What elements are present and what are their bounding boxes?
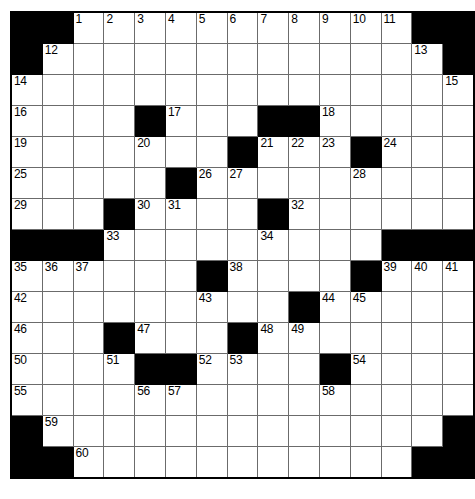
crossword-cell-numbered[interactable]: 24 (381, 137, 412, 168)
crossword-cell-numbered[interactable]: 12 (42, 44, 73, 75)
crossword-cell[interactable] (227, 44, 258, 75)
crossword-cell[interactable] (319, 44, 350, 75)
crossword-cell[interactable] (443, 137, 474, 168)
crossword-cell-numbered[interactable]: 40 (412, 261, 443, 292)
crossword-cell[interactable] (73, 137, 104, 168)
crossword-cell[interactable] (289, 416, 320, 447)
crossword-cell-numbered[interactable]: 46 (11, 323, 42, 354)
crossword-cell[interactable] (350, 385, 381, 416)
crossword-cell[interactable] (381, 168, 412, 199)
crossword-cell[interactable] (135, 292, 166, 323)
crossword-cell[interactable] (412, 75, 443, 106)
crossword-cell[interactable] (381, 44, 412, 75)
crossword-cell-numbered[interactable]: 28 (350, 168, 381, 199)
crossword-cell[interactable] (258, 385, 289, 416)
crossword-cell-numbered[interactable]: 23 (319, 137, 350, 168)
crossword-cell[interactable] (443, 323, 474, 354)
crossword-cell[interactable] (319, 199, 350, 230)
crossword-cell[interactable] (289, 354, 320, 385)
crossword-cell[interactable] (196, 199, 227, 230)
crossword-cell[interactable] (381, 416, 412, 447)
crossword-cell-numbered[interactable]: 4 (165, 12, 196, 44)
crossword-cell[interactable] (289, 261, 320, 292)
crossword-cell[interactable] (443, 199, 474, 230)
crossword-cell-numbered[interactable]: 35 (11, 261, 42, 292)
crossword-cell[interactable] (165, 416, 196, 447)
crossword-cell[interactable] (196, 44, 227, 75)
crossword-cell[interactable] (165, 261, 196, 292)
crossword-cell[interactable] (135, 416, 166, 447)
crossword-cell-numbered[interactable]: 8 (289, 12, 320, 44)
crossword-cell[interactable] (196, 106, 227, 137)
crossword-cell[interactable] (227, 292, 258, 323)
crossword-cell[interactable] (381, 106, 412, 137)
crossword-cell[interactable] (289, 385, 320, 416)
crossword-cell[interactable] (289, 447, 320, 479)
crossword-cell[interactable] (289, 44, 320, 75)
crossword-cell[interactable] (412, 354, 443, 385)
crossword-cell[interactable] (73, 106, 104, 137)
crossword-cell[interactable] (42, 199, 73, 230)
crossword-cell[interactable] (135, 447, 166, 479)
crossword-cell[interactable] (443, 292, 474, 323)
crossword-cell[interactable] (165, 292, 196, 323)
crossword-cell-numbered[interactable]: 14 (11, 75, 42, 106)
crossword-grid[interactable]: 1234567891011121314151617181920212223242… (10, 11, 475, 479)
crossword-cell[interactable] (319, 230, 350, 261)
crossword-cell[interactable] (412, 416, 443, 447)
crossword-cell-numbered[interactable]: 54 (350, 354, 381, 385)
crossword-cell[interactable] (381, 447, 412, 479)
crossword-cell[interactable] (104, 447, 135, 479)
crossword-cell-numbered[interactable]: 9 (319, 12, 350, 44)
crossword-cell-numbered[interactable]: 43 (196, 292, 227, 323)
crossword-cell-numbered[interactable]: 47 (135, 323, 166, 354)
crossword-cell-numbered[interactable]: 32 (289, 199, 320, 230)
crossword-cell[interactable] (443, 106, 474, 137)
crossword-cell-numbered[interactable]: 55 (11, 385, 42, 416)
crossword-cell[interactable] (42, 137, 73, 168)
crossword-cell[interactable] (350, 323, 381, 354)
crossword-cell[interactable] (319, 447, 350, 479)
crossword-cell-numbered[interactable]: 31 (165, 199, 196, 230)
crossword-cell-numbered[interactable]: 34 (258, 230, 289, 261)
crossword-cell[interactable] (42, 354, 73, 385)
crossword-cell[interactable] (227, 416, 258, 447)
crossword-cell-numbered[interactable]: 30 (135, 199, 166, 230)
crossword-cell-numbered[interactable]: 21 (258, 137, 289, 168)
crossword-cell-numbered[interactable]: 19 (11, 137, 42, 168)
crossword-cell-numbered[interactable]: 48 (258, 323, 289, 354)
crossword-cell[interactable] (104, 416, 135, 447)
crossword-cell[interactable] (165, 75, 196, 106)
crossword-cell[interactable] (412, 323, 443, 354)
crossword-cell[interactable] (227, 230, 258, 261)
crossword-cell[interactable] (227, 447, 258, 479)
crossword-cell[interactable] (196, 385, 227, 416)
crossword-cell-numbered[interactable]: 1 (73, 12, 104, 44)
crossword-cell-numbered[interactable]: 52 (196, 354, 227, 385)
crossword-cell[interactable] (289, 168, 320, 199)
crossword-cell[interactable] (196, 323, 227, 354)
crossword-cell[interactable] (227, 106, 258, 137)
crossword-cell-numbered[interactable]: 59 (42, 416, 73, 447)
crossword-cell[interactable] (73, 354, 104, 385)
crossword-cell[interactable] (258, 354, 289, 385)
crossword-cell-numbered[interactable]: 18 (319, 106, 350, 137)
crossword-cell[interactable] (165, 137, 196, 168)
crossword-cell[interactable] (350, 230, 381, 261)
crossword-cell[interactable] (381, 323, 412, 354)
crossword-cell[interactable] (42, 106, 73, 137)
crossword-cell[interactable] (443, 385, 474, 416)
crossword-cell[interactable] (165, 323, 196, 354)
crossword-cell-numbered[interactable]: 29 (11, 199, 42, 230)
crossword-cell[interactable] (381, 354, 412, 385)
crossword-cell[interactable] (227, 385, 258, 416)
crossword-cell-numbered[interactable]: 2 (104, 12, 135, 44)
crossword-cell[interactable] (73, 168, 104, 199)
crossword-cell[interactable] (73, 385, 104, 416)
crossword-cell[interactable] (42, 385, 73, 416)
crossword-cell[interactable] (196, 137, 227, 168)
crossword-cell[interactable] (289, 75, 320, 106)
crossword-cell-numbered[interactable]: 15 (443, 75, 474, 106)
crossword-cell[interactable] (135, 75, 166, 106)
crossword-cell[interactable] (135, 261, 166, 292)
